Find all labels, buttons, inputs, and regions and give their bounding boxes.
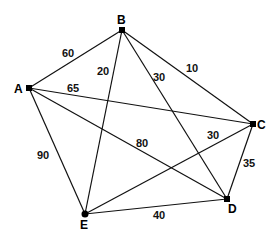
node-e [82, 211, 89, 218]
edge-a-c [29, 88, 253, 124]
node-b [119, 27, 125, 33]
node-label-e: E [80, 218, 88, 232]
weight-b-d: 30 [153, 71, 165, 83]
weight-c-d: 35 [243, 157, 255, 169]
node-c [250, 121, 256, 127]
weight-c-e: 30 [207, 129, 219, 141]
weight-b-e: 20 [97, 65, 109, 77]
weight-a-e: 90 [37, 149, 49, 161]
node-label-a: A [14, 82, 23, 96]
weight-b-c: 10 [186, 62, 198, 74]
node-a [26, 85, 32, 91]
node-label-d: D [228, 202, 237, 216]
node-label-b: B [117, 13, 126, 27]
weight-a-b: 60 [62, 47, 74, 59]
edge-a-b [29, 30, 122, 88]
edge-b-d [122, 30, 227, 199]
graph-canvas: 60 65 80 90 10 30 20 35 30 40 A B C D E [0, 0, 276, 242]
weight-a-d: 80 [136, 137, 148, 149]
edge-b-c [122, 30, 253, 124]
node-label-c: C [257, 118, 266, 132]
weight-d-e: 40 [153, 209, 165, 221]
edge-a-d [29, 88, 227, 199]
weight-a-c: 65 [67, 82, 79, 94]
